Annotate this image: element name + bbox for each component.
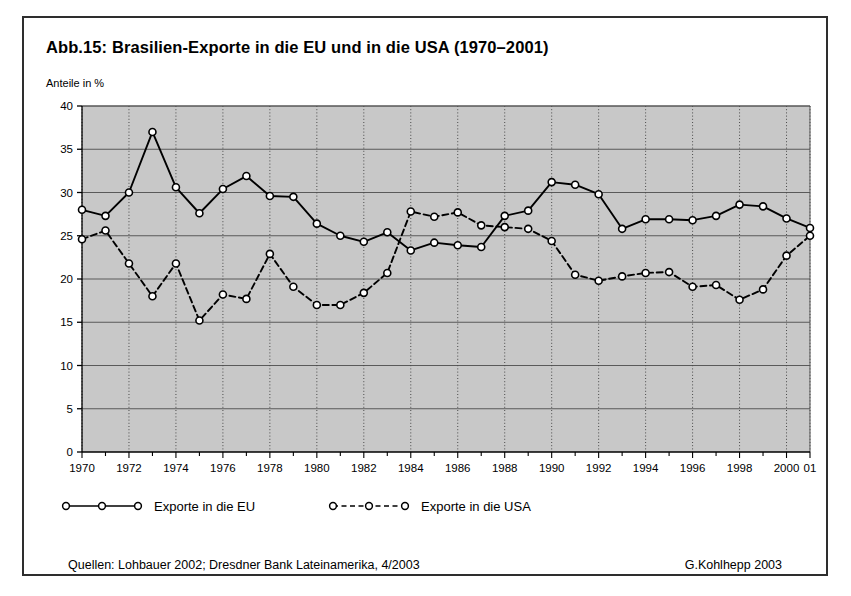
data-point-marker <box>595 191 602 198</box>
data-point-marker <box>501 212 508 219</box>
data-point-marker <box>642 269 649 276</box>
data-point-marker <box>807 224 814 231</box>
data-point-marker <box>102 212 109 219</box>
data-point-marker <box>79 206 86 213</box>
data-point-marker <box>478 222 485 229</box>
data-point-marker <box>454 242 461 249</box>
data-point-marker <box>102 227 109 234</box>
data-point-marker <box>149 293 156 300</box>
line-chart-plot: 0510152025303540 19701972197419761978198… <box>34 92 820 492</box>
x-axis-tick-label: 1978 <box>257 462 283 474</box>
x-axis-tick-label: 1986 <box>445 462 471 474</box>
data-point-marker <box>407 208 414 215</box>
data-point-marker <box>79 236 86 243</box>
data-point-marker <box>760 286 767 293</box>
legend-label-usa: Exporte in die USA <box>421 499 531 514</box>
x-axis-tick-label: 1994 <box>633 462 659 474</box>
data-point-marker <box>172 184 179 191</box>
x-axis-tick-label: 1972 <box>116 462 142 474</box>
x-axis-tick-label: 1984 <box>398 462 424 474</box>
chart-svg: 0510152025303540 19701972197419761978198… <box>34 92 820 492</box>
data-point-marker <box>313 301 320 308</box>
data-point-marker <box>290 193 297 200</box>
y-axis-tick-label: 5 <box>67 403 73 415</box>
data-point-marker <box>431 239 438 246</box>
data-point-marker <box>525 207 532 214</box>
x-axis-ticks <box>82 452 810 458</box>
data-point-marker <box>783 252 790 259</box>
data-point-marker <box>172 260 179 267</box>
footer-credit-text: G.Kohlhepp 2003 <box>685 558 782 572</box>
chart-legend: Exporte in die EU Exporte in die USA <box>46 495 806 529</box>
data-point-marker <box>760 203 767 210</box>
data-point-marker <box>384 229 391 236</box>
data-point-marker <box>689 283 696 290</box>
x-axis-tick-label: 1976 <box>210 462 236 474</box>
legend-sample-usa-icon <box>327 499 411 513</box>
data-point-marker <box>337 301 344 308</box>
x-axis-tick-label: 1990 <box>539 462 565 474</box>
data-point-marker <box>243 173 250 180</box>
x-axis-tick-label: 1992 <box>586 462 612 474</box>
data-point-marker <box>454 209 461 216</box>
data-point-marker <box>548 237 555 244</box>
y-axis-tick-label: 0 <box>67 446 73 458</box>
legend-entry-usa: Exporte in die USA <box>327 495 531 517</box>
figure-page: Abb.15: Brasilien-Exporte in die EU und … <box>0 0 851 596</box>
data-point-marker <box>149 128 156 135</box>
figure-title: Abb.15: Brasilien-Exporte in die EU und … <box>46 38 549 57</box>
x-axis-tick-label: 1988 <box>492 462 518 474</box>
data-point-marker <box>736 296 743 303</box>
data-point-marker <box>266 250 273 257</box>
data-point-marker <box>783 215 790 222</box>
y-axis-tick-label: 20 <box>60 273 73 285</box>
data-point-marker <box>572 271 579 278</box>
y-axis-tick-label: 30 <box>60 187 73 199</box>
data-point-marker <box>337 232 344 239</box>
y-axis-tick-labels: 0510152025303540 <box>60 100 73 458</box>
data-point-marker <box>243 295 250 302</box>
data-point-marker <box>689 217 696 224</box>
data-point-marker <box>713 212 720 219</box>
x-axis-tick-label: 01 <box>804 462 817 474</box>
data-point-marker <box>736 201 743 208</box>
y-axis-tick-label: 35 <box>60 143 73 155</box>
data-point-marker <box>196 317 203 324</box>
legend-label-eu: Exporte in die EU <box>154 499 255 514</box>
data-point-marker <box>196 210 203 217</box>
x-axis-tick-labels: 1970197219741976197819801982198419861988… <box>69 462 816 474</box>
data-point-marker <box>619 225 626 232</box>
y-axis-tick-label: 10 <box>60 360 73 372</box>
legend-sample-eu-icon <box>60 499 144 513</box>
data-point-marker <box>290 283 297 290</box>
data-point-marker <box>125 260 132 267</box>
data-point-marker <box>266 192 273 199</box>
x-axis-tick-label: 2000 <box>774 462 800 474</box>
y-axis-tick-label: 25 <box>60 230 73 242</box>
x-axis-tick-label: 1980 <box>304 462 330 474</box>
data-point-marker <box>219 291 226 298</box>
figure-card: Abb.15: Brasilien-Exporte in die EU und … <box>22 16 828 576</box>
data-point-marker <box>501 224 508 231</box>
data-point-marker <box>407 247 414 254</box>
data-point-marker <box>666 269 673 276</box>
data-point-marker <box>478 243 485 250</box>
data-point-marker <box>666 216 673 223</box>
data-point-marker <box>619 273 626 280</box>
legend-entry-eu: Exporte in die EU <box>60 495 255 517</box>
data-point-marker <box>125 189 132 196</box>
y-axis-ticks <box>77 106 82 452</box>
data-point-marker <box>595 277 602 284</box>
y-axis-tick-label: 15 <box>60 316 73 328</box>
x-axis-tick-label: 1970 <box>69 462 95 474</box>
data-point-marker <box>642 216 649 223</box>
data-point-marker <box>360 289 367 296</box>
data-point-marker <box>548 179 555 186</box>
data-point-marker <box>713 282 720 289</box>
y-axis-tick-label: 40 <box>60 100 73 112</box>
x-axis-tick-label: 1974 <box>163 462 189 474</box>
x-axis-tick-label: 1982 <box>351 462 377 474</box>
data-point-marker <box>572 181 579 188</box>
data-point-marker <box>431 213 438 220</box>
data-point-marker <box>313 220 320 227</box>
